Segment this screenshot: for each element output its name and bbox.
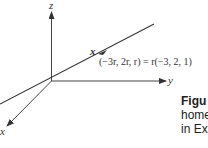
equation-label: (−3r, 2r, r) = r(−3, 2, 1): [99, 57, 192, 67]
caption-line-3: in Ex: [181, 122, 208, 136]
figure-caption: Figu home in Ex: [181, 94, 208, 136]
caption-line-2: home: [181, 108, 208, 122]
z-axis-label: z: [49, 0, 53, 11]
y-axis-label: y: [168, 75, 173, 86]
x-axis: [7, 81, 52, 126]
line-point-label: x: [90, 46, 96, 57]
caption-title: Figu: [181, 94, 208, 108]
axes-diagram: [0, 0, 208, 148]
x-axis-label: x: [0, 126, 5, 137]
